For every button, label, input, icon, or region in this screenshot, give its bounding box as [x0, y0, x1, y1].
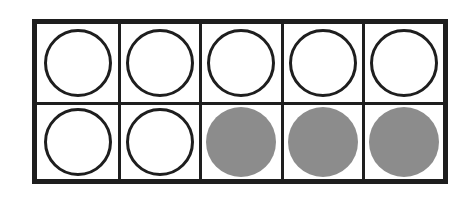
frame-cell [281, 102, 362, 180]
empty-counter-circle [126, 29, 194, 97]
filled-counter-circle [288, 107, 358, 177]
frame-cell [362, 102, 443, 180]
frame-cell [362, 24, 443, 102]
frame-cell [37, 102, 118, 180]
frame-cell [199, 24, 280, 102]
frame-cell [199, 102, 280, 180]
empty-counter-circle [370, 29, 438, 97]
frame-cell [37, 24, 118, 102]
empty-counter-circle [44, 108, 112, 176]
filled-counter-circle [369, 107, 439, 177]
filled-counter-circle [206, 107, 276, 177]
frame-cell [118, 24, 199, 102]
frame-cell [118, 102, 199, 180]
empty-counter-circle [126, 108, 194, 176]
empty-counter-circle [207, 29, 275, 97]
ten-frame [32, 19, 448, 184]
frame-cell [281, 24, 362, 102]
empty-counter-circle [289, 29, 357, 97]
empty-counter-circle [44, 29, 112, 97]
